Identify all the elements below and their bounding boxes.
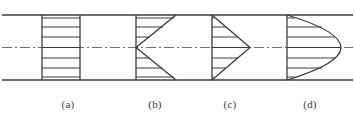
subfigure-label-b: (b) xyxy=(135,97,175,111)
profile-d-parabolic xyxy=(287,15,341,80)
subfigure-caption-row: (a) (b) (c) (d) xyxy=(0,97,355,119)
profile-d-arrows xyxy=(287,18,341,77)
profile-c-triangular xyxy=(212,15,250,80)
profile-c-arrows xyxy=(212,18,250,77)
subfigure-label-c: (c) xyxy=(210,97,250,111)
subfigure-label-a: (a) xyxy=(48,97,88,111)
velocity-profile-figure: (a) (b) (c) (d) xyxy=(0,0,355,125)
subfigure-label-d: (d) xyxy=(290,97,330,111)
profile-a-uniform xyxy=(42,15,80,80)
profile-a-arrows xyxy=(42,18,80,77)
